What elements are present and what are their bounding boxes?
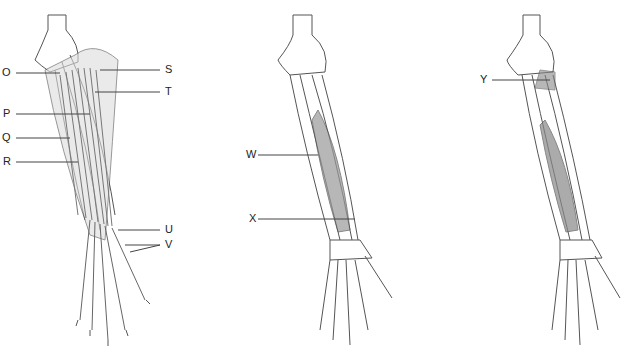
label-s: S	[165, 64, 172, 75]
label-y: Y	[480, 74, 487, 85]
label-q: Q	[2, 132, 11, 143]
label-o: O	[2, 67, 11, 78]
label-w: W	[246, 149, 256, 160]
anatomy-diagram	[0, 0, 626, 354]
label-r: R	[3, 156, 11, 167]
forearm-superficial-muscles	[16, 15, 160, 346]
label-x: X	[249, 213, 256, 224]
forearm-deepest-muscle	[492, 15, 620, 345]
label-p: P	[3, 108, 10, 119]
label-v: V	[165, 239, 172, 250]
label-t: T	[165, 86, 172, 97]
forearm-deep-muscles	[258, 15, 392, 345]
label-u: U	[165, 224, 173, 235]
